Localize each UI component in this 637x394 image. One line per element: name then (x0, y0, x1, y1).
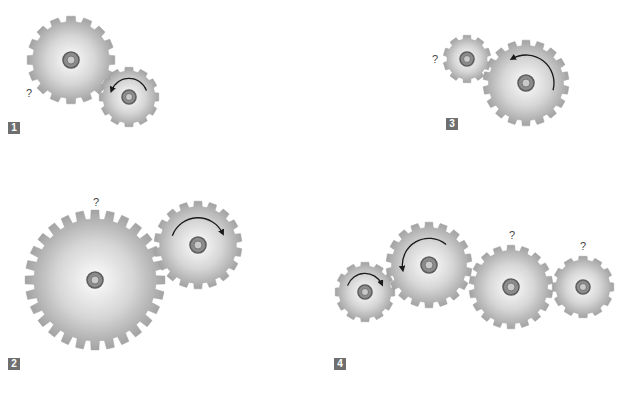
panel-number-badge: 4 (334, 358, 346, 370)
axle-icon (425, 261, 433, 269)
gear (469, 245, 553, 329)
axle-icon (194, 241, 202, 249)
axle-icon (91, 276, 99, 284)
axle-icon (67, 56, 75, 64)
question-mark: ? (580, 241, 586, 252)
panel-1 (27, 16, 159, 127)
axle-icon (507, 283, 515, 291)
question-mark: ? (432, 54, 438, 65)
panel-2 (25, 201, 242, 350)
gear (483, 40, 569, 126)
panel-number-badge: 2 (8, 358, 20, 370)
gear (154, 201, 242, 289)
panel-number-badge: 1 (8, 122, 20, 134)
gear (335, 262, 394, 321)
question-mark: ? (509, 230, 515, 241)
panel-4 (335, 222, 613, 329)
axle-icon (580, 284, 587, 291)
gear (386, 222, 472, 308)
gear (25, 210, 165, 350)
panel-3 (443, 35, 569, 126)
panel-number-badge: 3 (446, 118, 458, 130)
gear (27, 16, 115, 104)
question-mark: ? (26, 88, 32, 99)
question-mark: ? (93, 197, 99, 208)
axle-icon (464, 56, 471, 63)
gear (552, 256, 613, 317)
axle-icon (522, 79, 530, 87)
axle-icon (126, 94, 133, 101)
axle-icon (362, 289, 369, 296)
gear-puzzle-diagram: ?1?2?3??4 (0, 0, 637, 394)
